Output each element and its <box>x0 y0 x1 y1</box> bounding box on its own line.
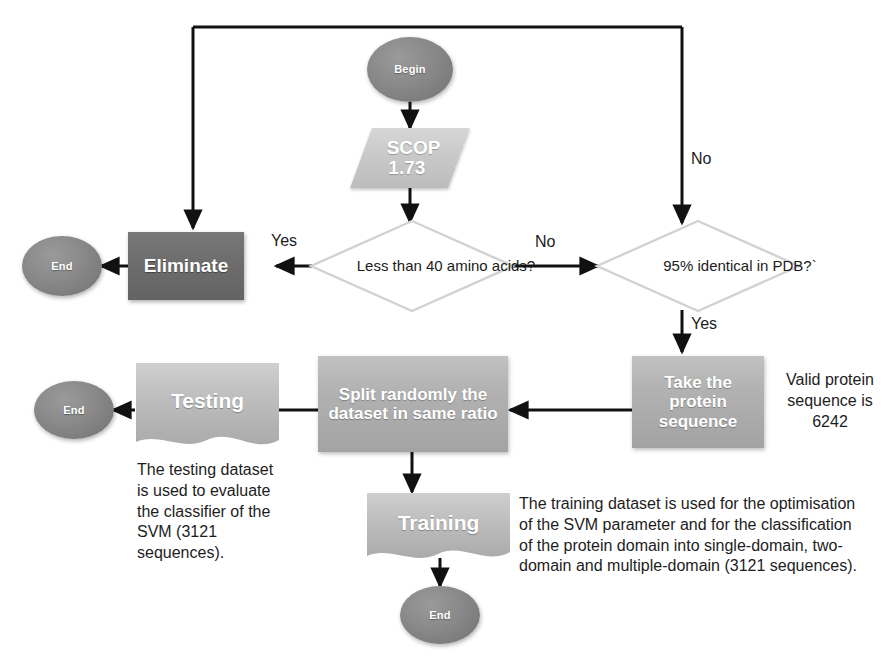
node-scop-label-line1: SCOP <box>387 138 441 158</box>
node-decision-pdb-label: 95% identical in PDB?` <box>594 218 886 314</box>
node-end-training[interactable]: End <box>400 586 480 644</box>
node-begin-label: Begin <box>394 63 426 75</box>
node-eliminate-label: Eliminate <box>144 255 228 276</box>
node-scop-label-line2: 1.73 <box>388 158 425 178</box>
edge-label-yes-eliminate: Yes <box>271 232 297 250</box>
node-take-protein-label: Take the protein sequence <box>640 373 756 430</box>
node-decision-pdb[interactable]: 95% identical in PDB?` <box>594 218 802 314</box>
node-end-eliminate[interactable]: End <box>22 236 102 296</box>
edge-label-no-to-pdb: No <box>535 233 555 251</box>
node-take-protein[interactable]: Take the protein sequence <box>632 356 764 448</box>
node-training-label: Training <box>366 492 511 554</box>
annotation-testing-note: The testing dataset is used to evaluate … <box>137 460 277 564</box>
node-eliminate[interactable]: Eliminate <box>128 232 244 300</box>
node-end-training-label: End <box>429 609 450 621</box>
edge-label-no-top: No <box>691 150 711 168</box>
node-begin[interactable]: Begin <box>367 37 453 102</box>
node-end-eliminate-label: End <box>51 260 72 272</box>
flowchart-canvas: Begin SCOP 1.73 Less than 40 amino acids… <box>0 0 891 665</box>
node-testing[interactable]: Testing <box>135 362 280 456</box>
node-testing-label: Testing <box>135 362 280 440</box>
annotation-training-note: The training dataset is used for the opt… <box>519 494 859 577</box>
annotation-valid-protein: Valid protein sequence is 6242 <box>774 370 886 432</box>
node-split-dataset[interactable]: Split randomly the dataset in same ratio <box>318 356 508 452</box>
node-end-testing-label: End <box>63 404 84 416</box>
node-end-testing[interactable]: End <box>34 381 114 439</box>
node-split-dataset-label: Split randomly the dataset in same ratio <box>328 385 498 423</box>
node-training[interactable]: Training <box>366 492 511 568</box>
edge-label-yes-pdb: Yes <box>691 315 717 333</box>
node-decision-length[interactable]: Less than 40 amino acids? <box>308 218 516 314</box>
